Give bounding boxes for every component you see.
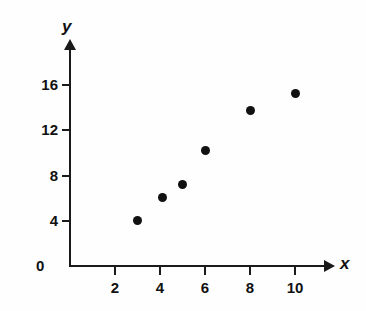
origin-tick-label: 0 <box>36 258 44 273</box>
data-point <box>178 180 187 189</box>
x-tick-label: 4 <box>145 280 175 295</box>
x-tick-mark <box>114 266 116 275</box>
x-tick-label: 10 <box>280 280 310 295</box>
y-axis-arrow-icon <box>64 39 76 50</box>
data-point <box>201 146 210 155</box>
x-axis-line <box>69 265 328 267</box>
y-tick-label: 8 <box>24 168 58 183</box>
y-tick-label: 16 <box>24 77 58 92</box>
x-axis-label: x <box>340 255 349 272</box>
x-tick-mark <box>249 266 251 275</box>
x-tick-label: 8 <box>235 280 265 295</box>
data-point <box>291 89 300 98</box>
x-tick-label: 2 <box>100 280 130 295</box>
y-axis-label: y <box>62 18 71 35</box>
y-tick-mark <box>62 175 71 177</box>
x-tick-mark <box>204 266 206 275</box>
data-point <box>246 106 255 115</box>
data-point <box>158 193 167 202</box>
x-tick-label: 6 <box>190 280 220 295</box>
y-axis-line <box>69 48 71 267</box>
y-tick-mark <box>62 84 71 86</box>
y-tick-label: 12 <box>24 122 58 137</box>
data-point <box>133 216 142 225</box>
y-tick-mark <box>62 129 71 131</box>
x-tick-mark <box>159 266 161 275</box>
y-tick-label: 4 <box>24 213 58 228</box>
y-tick-mark <box>62 220 71 222</box>
x-tick-mark <box>294 266 296 275</box>
x-axis-arrow-icon <box>324 260 335 272</box>
scatter-plot-figure: y x 0 481216 246810 <box>0 0 366 311</box>
